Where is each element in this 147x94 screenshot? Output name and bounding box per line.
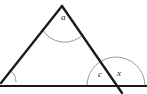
geometry-canvas bbox=[0, 0, 147, 94]
angle-label-c: c bbox=[98, 70, 102, 79]
angle-label-a: a bbox=[61, 13, 66, 22]
apex-angle-arc bbox=[42, 29, 84, 42]
triangle-left-side bbox=[1, 6, 62, 83]
geometry-figure: a c x bbox=[0, 0, 147, 94]
angle-label-x: x bbox=[117, 69, 121, 78]
base-angle-arc bbox=[87, 57, 145, 86]
triangle-right-side-transversal bbox=[62, 6, 122, 93]
